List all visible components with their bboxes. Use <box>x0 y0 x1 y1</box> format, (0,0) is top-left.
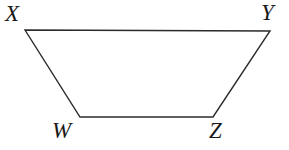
trapezoid-diagram <box>0 0 289 150</box>
diagram-background <box>0 0 289 150</box>
vertex-label-z: Z <box>209 119 222 142</box>
vertex-label-x: X <box>5 2 19 25</box>
vertex-label-w: W <box>52 119 71 142</box>
vertex-label-y: Y <box>261 1 274 24</box>
figure-canvas: X Y W Z <box>0 0 289 150</box>
